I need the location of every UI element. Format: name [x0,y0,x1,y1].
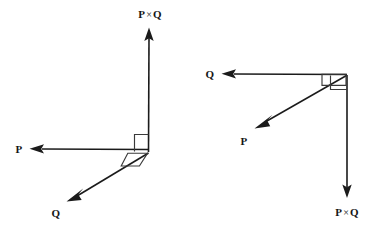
left-pq-label: P×Q [138,9,162,20]
left-q-label: Q [52,208,61,219]
left-q-arrowhead-down-left [67,188,84,201]
right-p-vector-shaft [266,76,347,122]
left-pq-vector-shaft [149,38,150,152]
left-p-vector-shaft [42,149,149,150]
right-p-arrowhead-down-left [255,115,273,129]
left-q-vector-shaft [77,153,149,196]
left-p-arrowhead-left [30,144,45,153]
right-pq-label-p: P [335,206,342,218]
right-q-label: Q [206,69,215,80]
right-pq-label-q: Q [350,206,359,218]
left-diagram [30,28,154,202]
right-q-arrowhead-left [222,69,237,78]
figure-page: { "figure": { "title": "Cross product ri… [0,0,380,232]
left-pq-label-cross: × [145,9,153,20]
right-p-label: P [241,136,248,147]
right-right-angle-skew-marker [322,74,346,85]
left-pq-label-p: P [138,8,145,20]
vector-diagram-canvas [0,0,380,232]
right-pq-label: P×Q [335,207,359,218]
left-p-label: P [16,144,23,155]
left-pq-label-q: Q [153,8,162,20]
right-pq-label-cross: × [342,207,350,218]
